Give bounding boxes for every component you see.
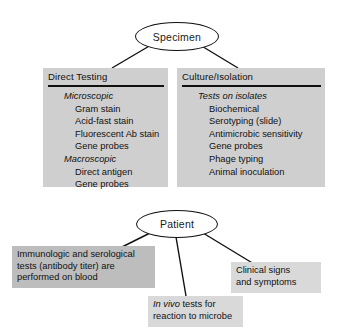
list-item: Biochemical <box>182 103 321 116</box>
panel-culture-isolation[interactable]: Culture/Isolation Tests on isolates Bioc… <box>177 68 325 187</box>
panel-direct-testing-body: Microscopic Gram stain Acid-fast stain F… <box>48 90 164 191</box>
note-in-vivo-line-1: In vivo tests for <box>153 299 238 311</box>
note-in-vivo-italic-lead: In vivo <box>153 299 180 309</box>
edge-patient-to-clinical-signs-note <box>203 233 254 264</box>
list-item: Fluorescent Ab stain <box>48 128 164 141</box>
list-item: Animal inoculation <box>182 166 321 179</box>
list-item: Phage typing <box>182 153 321 166</box>
note-clinical-signs-line-1: Clinical signs <box>236 265 316 277</box>
list-item: Gram stain <box>48 103 164 116</box>
panel-culture-isolation-title: Culture/Isolation <box>182 71 253 82</box>
note-serology-line-1: Immunologic and serological <box>17 249 150 261</box>
note-serology-line-3: performed on blood <box>17 272 150 284</box>
edge-specimen-to-culture-isolation <box>200 45 238 68</box>
note-in-vivo[interactable]: In vivo tests for reaction to microbe <box>148 296 243 327</box>
node-patient-label: Patient <box>160 218 194 230</box>
group-heading-microscopic: Microscopic <box>48 90 164 103</box>
group-heading-macroscopic: Macroscopic <box>48 153 164 166</box>
node-specimen[interactable]: Specimen <box>135 22 219 51</box>
list-item: Serotyping (slide) <box>182 115 321 128</box>
group-heading-tests-on-isolates: Tests on isolates <box>182 90 321 103</box>
list-item: Gene probes <box>48 178 164 191</box>
note-in-vivo-line-1-rest: tests for <box>180 299 216 309</box>
note-serology-line-2: tests (antibody titer) are <box>17 261 150 273</box>
list-item: Antimicrobic sensitivity <box>182 128 321 141</box>
note-in-vivo-line-2: reaction to microbe <box>153 311 238 323</box>
panel-culture-isolation-body: Tests on isolates Biochemical Serotyping… <box>182 90 321 178</box>
panel-direct-testing-title: Direct Testing <box>48 71 107 82</box>
list-item: Gene probes <box>48 140 164 153</box>
panel-direct-testing-rule <box>48 85 164 87</box>
list-item: Acid-fast stain <box>48 115 164 128</box>
note-serology[interactable]: Immunologic and serological tests (antib… <box>12 246 155 288</box>
diagram-canvas: Specimen Direct Testing Microscopic Gram… <box>0 0 343 334</box>
edge-specimen-to-direct-testing <box>112 45 151 68</box>
panel-direct-testing[interactable]: Direct Testing Microscopic Gram stain Ac… <box>43 68 168 187</box>
note-clinical-signs-line-2: and symptoms <box>236 277 316 289</box>
list-item: Direct antigen <box>48 166 164 179</box>
note-clinical-signs[interactable]: Clinical signs and symptoms <box>231 262 321 293</box>
panel-culture-isolation-rule <box>182 85 321 87</box>
list-item: Gene probes <box>182 140 321 153</box>
edge-patient-to-in-vivo-note <box>176 237 186 296</box>
node-patient[interactable]: Patient <box>136 210 218 238</box>
node-specimen-label: Specimen <box>153 31 201 43</box>
